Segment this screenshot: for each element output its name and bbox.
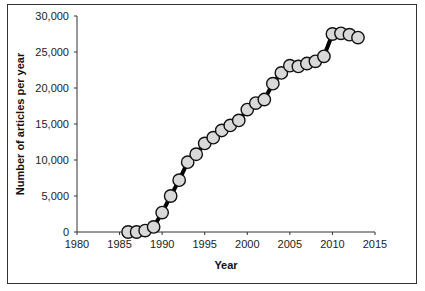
x-tick-label: 2010 [320,238,344,250]
x-tick-label: 1990 [150,238,174,250]
series-markers [122,27,364,238]
line-chart: 05,00010,00015,00020,00025,00030,000 198… [0,0,425,291]
y-tick-label: 15,000 [35,118,69,130]
x-tick-label: 1980 [65,238,89,250]
data-point-marker [164,190,176,202]
x-tick-label: 2015 [363,238,387,250]
data-point-marker [233,114,245,126]
x-axis-title: Year [214,259,238,271]
y-axis-title: Number of articles per year [14,52,26,195]
y-tick-label: 10,000 [35,154,69,166]
data-point-marker [173,174,185,186]
x-axis: 19801985199019952000200520102015 [65,232,387,250]
data-point-marker [156,206,168,218]
data-point-marker [147,221,159,233]
x-tick-label: 2000 [235,238,259,250]
y-tick-label: 25,000 [35,46,69,58]
x-tick-label: 2005 [278,238,302,250]
data-point-marker [267,77,279,89]
y-tick-label: 30,000 [35,10,69,22]
y-axis: 05,00010,00015,00020,00025,00030,000 [35,10,77,238]
y-tick-label: 0 [63,226,69,238]
data-point-marker [258,93,270,105]
x-tick-label: 1985 [107,238,131,250]
data-point-marker [190,148,202,160]
y-tick-label: 5,000 [41,190,69,202]
data-point-marker [352,31,364,43]
data-point-marker [318,50,330,62]
y-tick-label: 20,000 [35,82,69,94]
x-tick-label: 1995 [192,238,216,250]
